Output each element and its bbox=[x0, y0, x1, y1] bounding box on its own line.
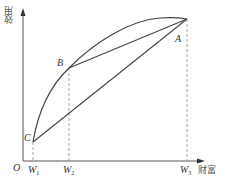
tick-label-w2: W2 bbox=[63, 165, 74, 178]
tick-label-w3: W3 bbox=[180, 165, 191, 178]
utility-diagram bbox=[0, 0, 228, 184]
point-label-a: A bbox=[175, 34, 181, 44]
origin-label: O bbox=[13, 163, 20, 173]
x-axis-label: 财富 bbox=[198, 165, 216, 175]
x-axis-arrow-icon bbox=[197, 159, 205, 164]
y-axis-label: 效用 bbox=[3, 6, 13, 24]
tick-w1-sub: 1 bbox=[36, 170, 39, 176]
chord-c-a bbox=[33, 19, 187, 142]
tick-w3-sub: 3 bbox=[188, 170, 191, 176]
point-label-c: C bbox=[24, 133, 31, 143]
point-label-b: B bbox=[57, 58, 63, 68]
tick-w2-sub: 2 bbox=[71, 170, 74, 176]
y-axis-arrow-icon bbox=[21, 8, 26, 16]
tick-label-w1: W1 bbox=[28, 165, 39, 178]
